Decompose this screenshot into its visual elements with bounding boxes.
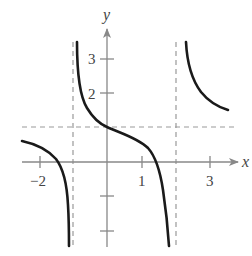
- function-graph: y x −2 1 3 3 2: [0, 0, 252, 256]
- curve: [22, 42, 228, 246]
- right-branch: [186, 42, 228, 110]
- x-tick-label-3: 3: [206, 173, 214, 189]
- left-branch: [22, 141, 69, 246]
- asymptotes: [22, 42, 236, 248]
- y-tick-label-3: 3: [88, 51, 96, 67]
- y-axis-label: y: [101, 6, 111, 24]
- y-tick-label-2: 2: [88, 86, 96, 102]
- ticks: [40, 59, 210, 231]
- x-tick-label-1: 1: [138, 173, 146, 189]
- x-tick-label-neg2: −2: [30, 173, 46, 189]
- x-axis-label: x: [241, 153, 249, 170]
- middle-branch: [77, 42, 169, 246]
